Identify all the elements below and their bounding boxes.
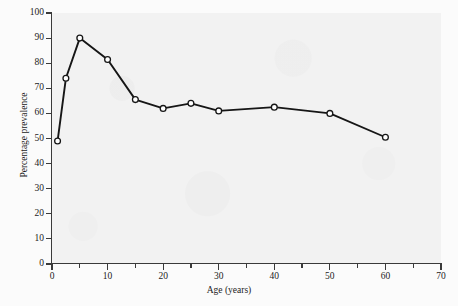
x-tick-40 <box>274 264 275 270</box>
y-tick-30 <box>46 188 51 189</box>
x-tick-0 <box>51 264 52 270</box>
y-tick-90 <box>46 38 51 39</box>
x-tick-label-30: 30 <box>204 272 234 282</box>
x-tick-label-20: 20 <box>148 272 178 282</box>
x-tick-minor-45 <box>301 264 302 268</box>
y-tick-70 <box>46 88 51 89</box>
x-tick-30 <box>218 264 219 270</box>
x-tick-minor-25 <box>190 264 191 268</box>
y-tick-label-90: 90 <box>14 33 44 43</box>
y-tick-label-100: 100 <box>14 8 44 18</box>
y-tick-40 <box>46 163 51 164</box>
x-tick-minor-15 <box>135 264 136 268</box>
x-tick-60 <box>385 264 386 270</box>
y-tick-20 <box>46 213 51 214</box>
x-tick-label-10: 10 <box>93 272 123 282</box>
x-tick-minor-55 <box>357 264 358 268</box>
y-tick-10 <box>46 238 51 239</box>
x-tick-label-40: 40 <box>259 272 289 282</box>
paper-grain-texture <box>52 13 441 264</box>
x-tick-10 <box>107 264 108 270</box>
x-tick-50 <box>329 264 330 270</box>
x-tick-label-60: 60 <box>370 272 400 282</box>
x-tick-70 <box>440 264 441 270</box>
x-tick-20 <box>163 264 164 270</box>
x-tick-label-70: 70 <box>426 272 456 282</box>
y-tick-label-10: 10 <box>14 234 44 244</box>
y-tick-80 <box>46 63 51 64</box>
y-tick-label-0: 0 <box>14 259 44 269</box>
y-axis-title: Percentage prevalence <box>19 65 29 205</box>
x-axis-title: Age (years) <box>0 285 458 295</box>
chart-screenshot: 0102030405060708090100 010203040506070 A… <box>0 0 458 306</box>
x-tick-minor-5 <box>79 264 80 268</box>
y-tick-label-20: 20 <box>14 209 44 219</box>
x-tick-minor-35 <box>246 264 247 268</box>
x-tick-label-0: 0 <box>37 272 67 282</box>
y-tick-50 <box>46 138 51 139</box>
y-tick-60 <box>46 113 51 114</box>
y-tick-100 <box>46 12 51 13</box>
y-axis-line <box>51 12 52 265</box>
x-tick-label-50: 50 <box>315 272 345 282</box>
x-tick-minor-65 <box>413 264 414 268</box>
y-tick-0 <box>46 263 51 264</box>
